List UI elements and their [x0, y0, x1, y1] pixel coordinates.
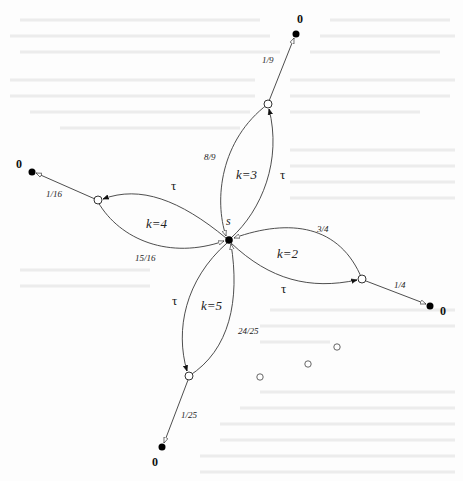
node-k2	[358, 275, 366, 283]
exit-prob-k5: 1/25	[181, 410, 198, 420]
return-prob-k5: 24/25	[238, 326, 259, 336]
exit-prob-k2: 1/4	[394, 280, 406, 290]
ellipsis-dots	[257, 344, 340, 380]
return-prob-k3: 8/9	[204, 152, 216, 162]
node-k5	[185, 372, 193, 380]
return-prob-k2: 3/4	[316, 224, 329, 234]
k-label-k4: k=4	[146, 216, 168, 231]
branch-k2: 0 1/4 3/4 k=2 τ	[231, 224, 446, 318]
node-k4	[94, 196, 102, 204]
terminal-node-k4	[29, 169, 36, 176]
terminal-label-k5: 0	[152, 455, 158, 469]
tau-label-k5: τ	[172, 293, 177, 308]
center-node-group: s	[225, 214, 233, 244]
diagram-canvas: 0 1/9 8/9 k=3 τ 0 1/16 15/16 k=4 τ 0	[0, 0, 463, 481]
ellipsis-dot-2	[305, 361, 311, 367]
center-node-s	[225, 236, 233, 244]
edge-k4-exit	[36, 173, 95, 199]
branch-k3: 0 1/9 8/9 k=3 τ	[204, 12, 303, 238]
exit-prob-k4: 1/16	[46, 189, 63, 199]
k-label-k3: k=3	[236, 167, 258, 182]
terminal-node-k5	[159, 444, 166, 451]
exit-prob-k3: 1/9	[262, 55, 274, 65]
edge-k3-exit	[269, 38, 294, 101]
ellipsis-dot-3	[334, 344, 340, 350]
branch-k5: 0 1/25 24/25 k=5 τ	[152, 243, 259, 469]
tau-label-k2: τ	[281, 281, 286, 296]
k-label-k5: k=5	[201, 298, 223, 313]
terminal-node-k3	[293, 31, 300, 38]
ellipsis-dot-1	[257, 374, 263, 380]
state-graph: 0 1/9 8/9 k=3 τ 0 1/16 15/16 k=4 τ 0	[0, 0, 463, 481]
terminal-label-k4: 0	[16, 157, 22, 171]
k-label-k2: k=2	[277, 246, 299, 261]
branch-k4: 0 1/16 15/16 k=4 τ	[16, 157, 226, 263]
terminal-label-k2: 0	[440, 304, 446, 318]
terminal-node-k2	[427, 303, 434, 310]
tau-label-k4: τ	[171, 178, 176, 193]
node-k3	[264, 100, 272, 108]
return-prob-k4: 15/16	[135, 253, 156, 263]
center-label-s: s	[226, 214, 231, 228]
tau-label-k3: τ	[280, 167, 285, 182]
background-bleed-through	[10, 20, 455, 472]
terminal-label-k3: 0	[297, 12, 303, 26]
